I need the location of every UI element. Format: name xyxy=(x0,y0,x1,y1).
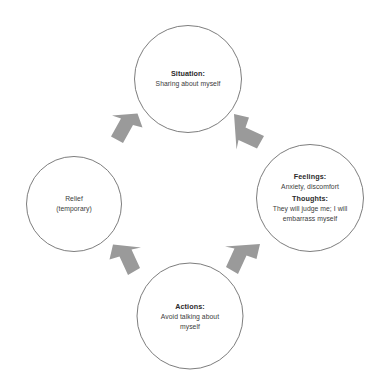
cycle-diagram: Situation: Sharing about myself Feelings… xyxy=(0,0,372,389)
node-relief-line1: Relief xyxy=(65,194,83,205)
node-actions-body: Avoid talking about myself xyxy=(151,312,229,333)
node-feelings: Feelings: Anxiety, discomfort Thoughts: … xyxy=(256,145,364,251)
node-relief: Relief (temporary) xyxy=(26,156,122,252)
node-situation: Situation: Sharing about myself xyxy=(134,25,242,133)
node-situation-heading: Situation: xyxy=(171,68,205,79)
node-actions-content: Actions: Avoid talking about myself xyxy=(140,301,239,333)
node-feelings-content: Feelings: Anxiety, discomfort Thoughts: … xyxy=(260,171,359,225)
arrow-actions-to-relief xyxy=(110,245,142,276)
arrow-feelings-to-actions xyxy=(225,244,260,274)
node-actions-heading: Actions: xyxy=(175,301,205,312)
arrow-relief-to-situation xyxy=(111,114,143,144)
node-situation-content: Situation: Sharing about myself xyxy=(138,68,237,90)
node-situation-body: Sharing about myself xyxy=(156,79,221,90)
node-thoughts-body: They will judge me; I will embarrass mys… xyxy=(262,204,358,225)
node-feelings-body: Anxiety, discomfort xyxy=(281,182,339,193)
arrow-situation-to-feelings xyxy=(234,114,264,150)
node-actions: Actions: Avoid talking about myself xyxy=(136,264,244,369)
node-relief-line2: (temporary) xyxy=(56,204,92,215)
node-relief-content: Relief (temporary) xyxy=(30,194,118,215)
node-feelings-heading: Feelings: xyxy=(294,171,326,182)
node-thoughts-heading: Thoughts: xyxy=(292,193,328,204)
